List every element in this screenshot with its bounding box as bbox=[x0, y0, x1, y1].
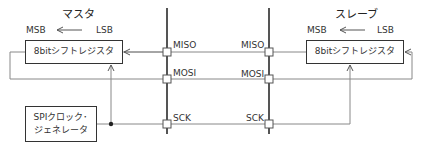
slave-miso-label: MISO bbox=[241, 41, 264, 50]
slave-msb-label: MSB bbox=[307, 26, 327, 35]
clock-generator-line1: SPIクロック･ bbox=[34, 111, 89, 124]
clock-generator-line2: ジェネレータ bbox=[34, 124, 88, 137]
slave-miso-port bbox=[265, 48, 273, 56]
slave-lsb-label: LSB bbox=[377, 26, 394, 35]
slave-mosi-label: MOSI bbox=[241, 70, 264, 79]
spi-clock-generator: SPIクロック･ ジェネレータ bbox=[25, 106, 97, 142]
master-sck-label: SCK bbox=[173, 114, 191, 123]
slave-mosi-port bbox=[265, 75, 273, 83]
master-mosi-port bbox=[163, 75, 171, 83]
master-lsb-label: LSB bbox=[96, 26, 113, 35]
slave-shift-register: 8bitシフトレジスタ bbox=[306, 40, 404, 64]
master-mosi-label: MOSI bbox=[173, 69, 196, 78]
master-msb-label: MSB bbox=[26, 26, 46, 35]
slave-mosi-in bbox=[405, 52, 412, 79]
master-title: マスタ bbox=[62, 9, 95, 20]
master-sck-port bbox=[163, 120, 171, 128]
slave-sck-label: SCK bbox=[246, 114, 264, 123]
slave-title: スレーブ bbox=[335, 9, 378, 20]
slave-clock-in bbox=[340, 65, 350, 124]
master-miso-label: MISO bbox=[173, 41, 196, 50]
slave-sck-port bbox=[265, 120, 273, 128]
master-shift-register: 8bitシフトレジスタ bbox=[25, 40, 123, 64]
sck-junction-dot bbox=[109, 122, 113, 126]
slave-register-label: 8bitシフトレジスタ bbox=[315, 45, 395, 58]
miso-wire bbox=[10, 52, 26, 79]
master-miso-port bbox=[163, 48, 171, 56]
master-register-label: 8bitシフトレジスタ bbox=[34, 45, 114, 58]
